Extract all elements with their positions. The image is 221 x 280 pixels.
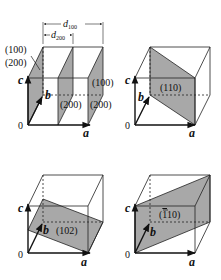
axis-b-label: b xyxy=(150,225,156,239)
origin-label: 0 xyxy=(125,249,130,260)
label-200-right: (200) xyxy=(90,99,112,111)
panel-102: c b a 0 (102) xyxy=(18,175,103,269)
label-102: (102) xyxy=(56,225,78,237)
axis-c-label: c xyxy=(125,201,131,215)
label-100-left: (100) xyxy=(5,44,27,56)
panel-100-200: c b a 0 (100) (200) (200) (100) (200) d1… xyxy=(5,17,114,140)
origin-label: 0 xyxy=(18,249,23,260)
axis-c-label: c xyxy=(18,73,24,87)
label-200-mid: (200) xyxy=(60,99,82,111)
plane-100-left xyxy=(28,47,43,125)
panel-110: c b a 0 (110) xyxy=(125,47,210,140)
axis-a-label: a xyxy=(83,126,89,140)
miller-planes-diagram: c b a 0 (100) (200) (200) (100) (200) d1… xyxy=(0,0,221,280)
axis-b-label: b xyxy=(138,90,144,104)
axis-a-label: a xyxy=(189,126,195,140)
label-110: (110) xyxy=(160,82,181,94)
origin-label: 0 xyxy=(125,120,130,131)
plane-200-mid xyxy=(58,47,73,125)
axis-c-label: c xyxy=(18,201,24,215)
panel-bar110: c b a 0 (110) xyxy=(125,175,210,269)
axis-b-label: b xyxy=(43,223,49,237)
axis-a-label: a xyxy=(189,255,195,269)
axis-a-label: a xyxy=(81,255,87,269)
label-200-left: (200) xyxy=(5,57,27,69)
axis-b-label: b xyxy=(45,88,51,102)
label-100-right: (100) xyxy=(92,77,114,89)
origin-label: 0 xyxy=(18,120,23,131)
axis-c-label: c xyxy=(125,73,131,87)
label-bar110: (110) xyxy=(159,209,180,221)
